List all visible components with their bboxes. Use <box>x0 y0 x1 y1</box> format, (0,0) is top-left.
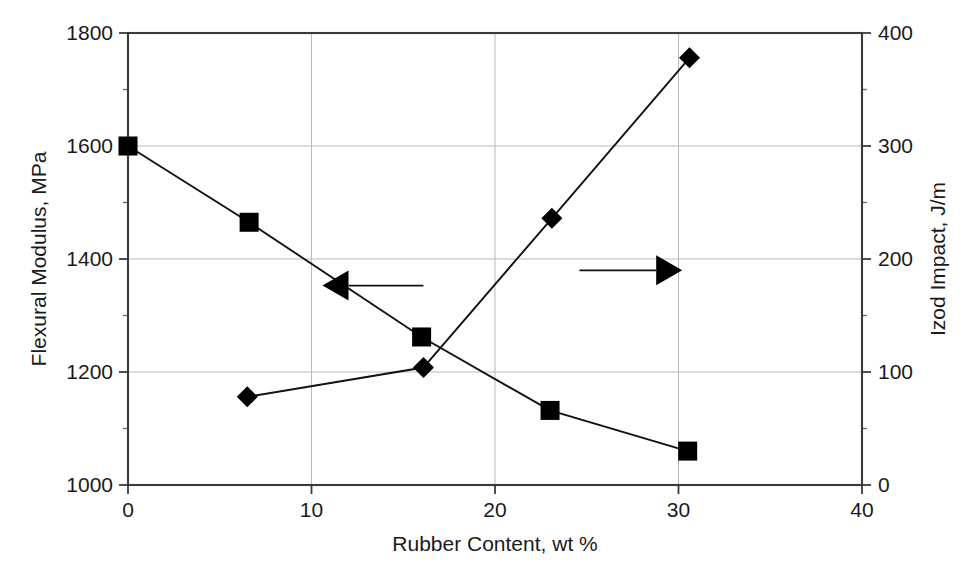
series-group <box>119 47 701 460</box>
y-tick-label-left: 1400 <box>66 247 113 270</box>
tick-labels-group: 1000120014001600180001002003004000102030… <box>66 21 913 521</box>
series-line-izod-impact <box>247 58 689 397</box>
annotations-group <box>323 255 683 300</box>
y-tick-label-left: 1000 <box>66 473 113 496</box>
chart-canvas: 1000120014001600180001002003004000102030… <box>0 0 976 567</box>
y-tick-label-left: 1200 <box>66 360 113 383</box>
data-point-square <box>678 442 697 461</box>
x-tick-label: 20 <box>483 498 506 521</box>
y-tick-label-left: 1600 <box>66 134 113 157</box>
data-point-square <box>119 137 138 156</box>
arrow-head-left-icon <box>323 271 349 301</box>
x-tick-label: 10 <box>300 498 323 521</box>
data-point-square <box>412 327 431 346</box>
data-point-square <box>240 213 259 232</box>
data-point-diamond <box>237 386 258 407</box>
y-axis-title-right: Izod Impact, J/m <box>926 182 949 336</box>
y-axis-title-left: Flexural Modulus, MPa <box>27 151 50 366</box>
y-tick-label-right: 200 <box>878 247 913 270</box>
y-tick-label-right: 0 <box>878 473 890 496</box>
gridlines-group <box>128 33 862 485</box>
y-tick-label-right: 400 <box>878 21 913 44</box>
x-axis-title: Rubber Content, wt % <box>392 532 597 555</box>
x-tick-label: 40 <box>850 498 873 521</box>
data-point-square <box>541 401 560 420</box>
x-tick-label: 30 <box>667 498 690 521</box>
series-line-flexural-modulus <box>128 146 688 451</box>
y-tick-label-left: 1800 <box>66 21 113 44</box>
y-tick-label-right: 300 <box>878 134 913 157</box>
x-tick-label: 0 <box>122 498 134 521</box>
y-tick-label-right: 100 <box>878 360 913 383</box>
chart-figure: 1000120014001600180001002003004000102030… <box>0 0 976 567</box>
